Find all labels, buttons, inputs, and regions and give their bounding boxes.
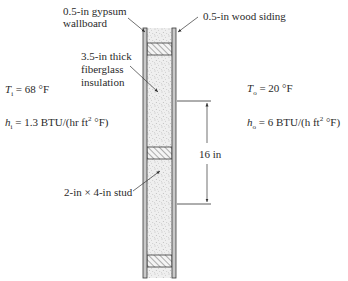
stud-1: [147, 43, 172, 55]
stud-2: [147, 147, 172, 159]
gypsum-label: 0.5-in gypsum wallboard: [63, 5, 127, 29]
inside-h-value-a: = 1.3 BTU/(hr ft: [12, 116, 88, 128]
stud-label: 2-in × 4-in stud: [64, 186, 132, 198]
gypsum-leader: [128, 18, 145, 32]
stud-3: [147, 255, 172, 267]
spacing-label: 16 in: [198, 148, 222, 160]
outside-h-value-b: °F): [323, 116, 340, 128]
inside-h-value-b: °F): [92, 116, 109, 128]
outside-h-value-a: = 6 BTU/(h ft: [256, 116, 320, 128]
gypsum-wallboard: [143, 28, 147, 278]
siding-label: 0.5-in wood siding: [203, 10, 286, 22]
wall-section-diagram: [0, 0, 348, 281]
outside-temp-value: = 20 °F: [257, 82, 293, 94]
outside-film-coefficient: ho = 6 BTU/(h ft2 °F): [247, 116, 340, 128]
insulation-label: 3.5-in thick fiberglass insulation: [81, 50, 132, 89]
inside-temp-value: = 68 °F: [13, 83, 49, 95]
wood-siding: [172, 28, 176, 278]
inside-temperature: Ti = 68 °F: [5, 83, 49, 95]
outside-temperature: To = 20 °F: [247, 82, 293, 94]
siding-leader: [178, 17, 198, 32]
inside-film-coefficient: hi = 1.3 BTU/(hr ft2 °F): [5, 116, 108, 128]
